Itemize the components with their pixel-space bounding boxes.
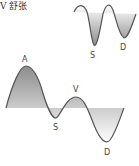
bottom-wave: A S V D xyxy=(6,55,124,157)
bottom-label-d: D xyxy=(104,148,110,157)
top-wave: S D xyxy=(74,5,136,60)
bottom-label-s: S xyxy=(53,123,58,132)
top-label-s: S xyxy=(90,51,95,60)
bottom-label-a: A xyxy=(22,55,28,64)
top-label-d: D xyxy=(120,43,126,52)
wave-diagram: S D A S V D xyxy=(0,0,139,166)
bottom-label-v: V xyxy=(73,85,79,94)
